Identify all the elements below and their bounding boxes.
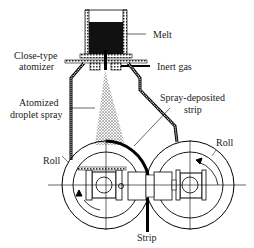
label-atomizer-2: atomizer [19,61,54,72]
crucible [85,10,127,54]
label-roll-right: Roll [216,137,233,148]
strip [146,198,149,232]
center-block-right [154,172,172,200]
label-strip: Strip [137,232,156,243]
label-melt: Melt [153,29,172,40]
chamber-wall-left [71,63,84,160]
strip-dep-leader [134,108,170,146]
label-roll-left: Roll [43,155,60,166]
nozzle [104,50,107,70]
label-atomizer-1: Close-type [14,50,57,61]
label-strip-dep-1: Spray-deposited [160,92,225,103]
roll-right-leader [212,150,216,156]
label-strip-dep-2: strip [184,104,202,115]
label-spray-2: droplet spray [10,109,63,120]
roll-left-leader [62,156,68,162]
apparatus-diagram [0,0,254,248]
label-inert-gas: Inert gas [157,61,192,72]
center-block-left [128,172,146,200]
label-spray-1: Atomized [19,97,58,108]
droplet-spray [95,70,125,145]
